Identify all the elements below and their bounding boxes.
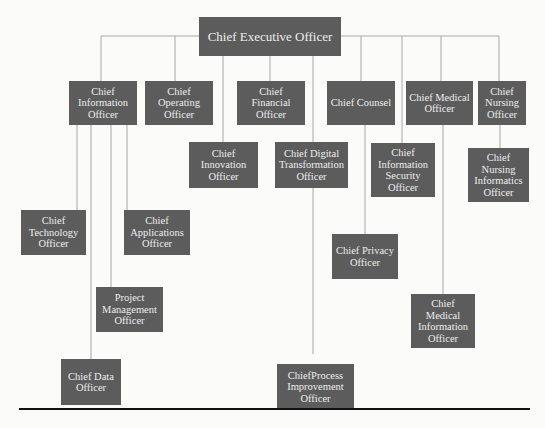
org-chart: Chief Executive Officer Chief Informatio… — [0, 0, 545, 428]
bottom-rule — [19, 408, 530, 410]
node-cnio: Chief Nursing Informatics Officer — [468, 148, 529, 202]
node-cio: Chief Information Officer — [69, 81, 137, 125]
node-pmo: Project Management Officer — [96, 287, 163, 332]
node-cfo: Chief Financial Officer — [237, 81, 305, 125]
node-cmo: Chief Medical Officer — [406, 81, 473, 125]
node-privacy: Chief Privacy Officer — [332, 234, 398, 279]
node-counsel: Chief Counsel — [327, 81, 395, 125]
node-cao: Chief Applications Officer — [124, 210, 190, 255]
node-ciso: Chief Information Security Officer — [371, 143, 435, 197]
node-cdto: Chief Digital Transformation Officer — [275, 142, 348, 188]
node-cno: Chief Nursing Officer — [478, 81, 526, 125]
node-innovation: Chief Innovation Officer — [189, 142, 258, 188]
node-ceo: Chief Executive Officer — [199, 17, 341, 56]
node-cto: Chief Technology Officer — [21, 210, 86, 255]
node-cmio: Chief Medical Information Officer — [411, 294, 475, 348]
node-cpio: ChiefProcess Improvement Officer — [277, 364, 354, 410]
node-cdo: Chief Data Officer — [61, 359, 121, 405]
node-coo: Chief Operating Officer — [145, 81, 213, 125]
